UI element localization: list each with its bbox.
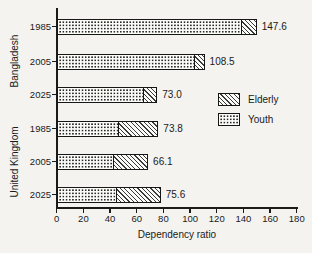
x-axis-line (56, 207, 298, 209)
legend-swatch-elderly-hatch-icon (218, 93, 240, 106)
x-axis-tick-label: 120 (209, 213, 225, 224)
bar-bangladesh-2005 (57, 54, 205, 70)
bar-value-label: 73.8 (163, 121, 182, 137)
bar-segment-youth (58, 122, 118, 136)
axis-group-label-united-kingdom: United Kingdom (9, 126, 20, 197)
bar-segment-youth (58, 188, 117, 202)
y-axis-tick (52, 94, 56, 95)
legend-label-youth: Youth (248, 113, 273, 126)
y-axis-line (56, 8, 58, 208)
bar-segment-elderly (113, 155, 147, 169)
bar-value-label: 75.6 (166, 187, 185, 203)
bar-united-kingdom-1985 (57, 121, 159, 137)
x-axis-tick-label: 60 (131, 213, 142, 224)
ytick-label-year: 2025 (25, 187, 51, 203)
y-axis-tick (52, 161, 56, 162)
y-axis-tick (52, 61, 56, 62)
x-axis-tick-label: 140 (235, 213, 251, 224)
bar-segment-elderly (194, 55, 203, 69)
ytick-label-year: 2005 (25, 54, 51, 70)
bar-segment-youth (58, 20, 241, 34)
ytick-label-year: 2005 (25, 154, 51, 170)
x-axis-tick-label: 80 (158, 213, 169, 224)
x-axis-tick-label: 180 (289, 213, 305, 224)
x-axis-tick-label: 160 (262, 213, 278, 224)
x-axis-tick-label: 40 (105, 213, 116, 224)
bar-segment-elderly (241, 20, 256, 34)
x-axis-title: Dependency ratio (56, 229, 298, 240)
y-axis-tick (52, 26, 56, 27)
x-axis-tick-label: 0 (54, 213, 59, 224)
dependency-ratio-chart: Dependency ratio Elderly Youth 020406080… (0, 0, 312, 253)
bar-segment-elderly (118, 122, 158, 136)
bar-segment-elderly (116, 188, 159, 202)
bar-united-kingdom-2025 (57, 187, 161, 203)
bar-value-label: 73.0 (162, 87, 181, 103)
ytick-label-year: 1985 (25, 19, 51, 35)
bar-united-kingdom-2005 (57, 154, 148, 170)
ytick-label-year: 2025 (25, 87, 51, 103)
bar-value-label: 108.5 (210, 54, 235, 70)
legend-swatch-youth-dots-icon (218, 113, 240, 126)
x-axis-tick-label: 20 (78, 213, 89, 224)
bar-segment-youth (58, 155, 113, 169)
axis-group-label-bangladesh: Bangladesh (9, 35, 20, 88)
bar-segment-youth (58, 88, 143, 102)
bar-value-label: 147.6 (262, 19, 287, 35)
ytick-label-year: 1985 (25, 121, 51, 137)
bar-segment-youth (58, 55, 195, 69)
y-axis-tick (52, 128, 56, 129)
legend-label-elderly: Elderly (248, 93, 279, 106)
bar-segment-elderly (143, 88, 156, 102)
y-axis-tick (52, 194, 56, 195)
bar-bangladesh-1985 (57, 19, 257, 35)
bar-bangladesh-2025 (57, 87, 158, 103)
x-axis-tick-label: 100 (182, 213, 198, 224)
bar-value-label: 66.1 (153, 154, 172, 170)
